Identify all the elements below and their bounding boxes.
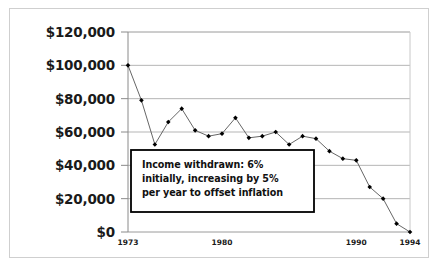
y-axis-tick-label: $100,000 [46,57,115,73]
annotation-line-3: per year to offset inflation [142,187,283,198]
y-axis-tick-label: $20,000 [55,191,115,207]
income-decline-line-chart: $0$20,000$40,000$60,000$80,000$100,000$1… [0,0,439,268]
y-axis-labels: $0$20,000$40,000$60,000$80,000$100,000$1… [46,24,115,240]
x-axis-labels: 1973198019901994 [118,238,421,247]
y-axis-tick-label: $80,000 [55,91,115,107]
annotation-box: Income withdrawn: 6% initially, increasi… [131,150,314,212]
y-axis-tick-label: $120,000 [46,24,115,40]
x-axis-tick-label: 1994 [400,238,421,247]
y-axis-tick-label: $40,000 [55,157,115,173]
y-axis-tick-label: $0 [97,224,115,240]
y-axis-tick-marks [121,32,128,232]
y-axis-tick-label: $60,000 [55,124,115,140]
chart-figure: $0$20,000$40,000$60,000$80,000$100,000$1… [0,0,439,268]
annotation-line-2: initially, increasing by 5% [142,173,279,184]
x-axis-tick-label: 1990 [346,238,367,247]
annotation-line-1: Income withdrawn: 6% [142,159,264,170]
x-axis-tick-label: 1980 [212,238,233,247]
x-axis-tick-label: 1973 [118,238,139,247]
